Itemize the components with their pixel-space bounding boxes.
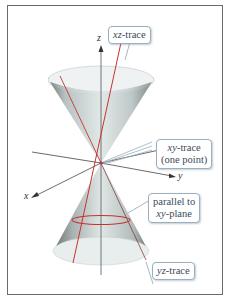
callout-xy-trace: xy-trace (one point) (156, 139, 212, 169)
x-axis-arrow-icon (31, 192, 39, 198)
origin-point (99, 161, 102, 164)
callout-xz-trace: xz-trace (108, 26, 151, 44)
z-axis-arrow-icon (99, 45, 104, 52)
callout-yz-trace: yz-trace (152, 262, 195, 280)
y-axis-label: y (178, 170, 182, 181)
y-axis-back (32, 152, 101, 163)
y-axis-arrow-icon (169, 174, 176, 179)
x-axis-label: x (24, 190, 28, 201)
callout-parallel-plane: parallel to xy-plane (148, 193, 200, 223)
z-axis-label: z (97, 32, 101, 43)
